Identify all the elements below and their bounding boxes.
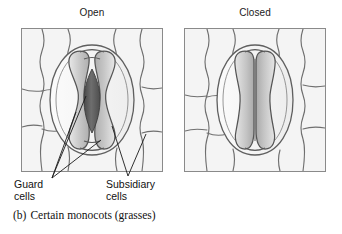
label-guard-line2: cells (14, 191, 43, 203)
open-stoma-illustration (22, 29, 162, 171)
label-guard-cells: Guard cells (14, 179, 43, 202)
label-subsidiary-line2: cells (106, 191, 155, 203)
panel-title-open: Open (21, 7, 163, 18)
panel-closed-stoma (184, 28, 326, 172)
label-subsidiary-cells: Subsidiary cells (106, 179, 155, 202)
panel-open-stoma (21, 28, 163, 172)
stomata-figure: Open Closed (0, 0, 342, 234)
panel-title-closed: Closed (184, 7, 326, 18)
closed-stoma-illustration (185, 29, 325, 171)
label-guard-line1: Guard (14, 179, 43, 191)
caption-letter: (b) (13, 209, 26, 221)
figure-caption: (b)Certain monocots (grasses) (13, 209, 156, 221)
label-subsidiary-line1: Subsidiary (106, 179, 155, 191)
caption-text: Certain monocots (grasses) (30, 209, 155, 221)
